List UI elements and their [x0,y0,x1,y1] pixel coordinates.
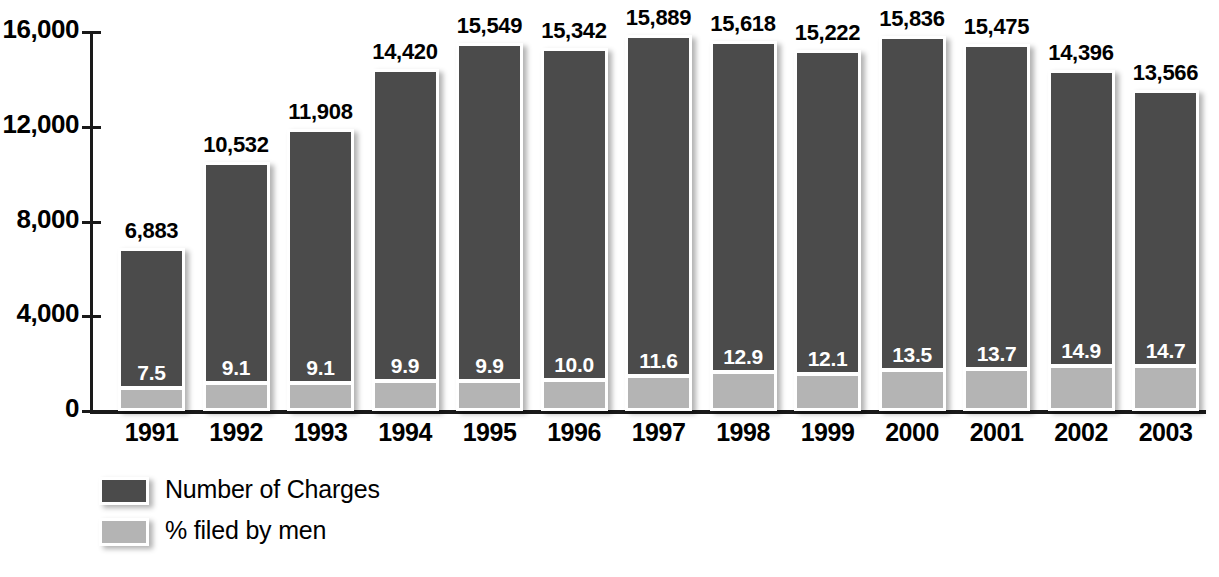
bar-pct-label-1996: 10.0 [541,353,608,377]
bar-pct-label-1998: 12.9 [710,345,777,369]
y-axis-tick-label-text: 4,000 [16,298,79,329]
y-axis-tick-label-text: 12,000 [2,109,79,140]
bar-1991 [118,248,185,411]
x-axis-label-1994: 1994 [366,418,445,447]
x-axis-label-2002: 2002 [1042,418,1121,447]
y-axis-tick-label-text: 8,000 [16,204,79,235]
bar-pct-segment-1996 [544,378,605,408]
bar-pct-label-1992: 9.1 [203,356,270,380]
x-axis-label-2001: 2001 [957,418,1036,447]
bar-pct-label-2000: 13.5 [879,343,946,367]
bar-pct-label-1994: 9.9 [372,354,439,378]
bar-chart: 16,00012,0008,0004,0000 6,8837.5199110,5… [0,0,1219,577]
bar-value-label-1995: 15,549 [456,13,523,39]
bar-value-label-2000: 15,836 [879,6,946,32]
bar-pct-segment-2000 [882,368,943,408]
legend-swatch-1 [99,518,149,546]
bar-value-label-2002: 14,396 [1048,40,1115,66]
bar-pct-segment-2001 [966,367,1027,408]
x-axis-label-1995: 1995 [450,418,529,447]
bar-pct-segment-1994 [375,379,436,408]
x-axis-label-1998: 1998 [704,418,783,447]
bar-pct-segment-2002 [1051,364,1112,408]
bar-pct-label-2001: 13.7 [963,342,1030,366]
bar-value-label-2003: 13,566 [1132,60,1199,86]
bar-pct-label-1993: 9.1 [287,356,354,380]
y-axis-tick [82,221,101,224]
y-axis-tick [82,315,101,318]
legend-label-1: % filed by men [165,516,326,545]
bar-pct-segment-1999 [797,372,858,408]
bar-value-label-1992: 10,532 [203,132,270,158]
bar-pct-label-2003: 14.7 [1132,339,1199,363]
y-axis-tick-label-text: 0 [65,393,79,424]
x-axis-label-1996: 1996 [535,418,614,447]
bar-value-label-1999: 15,222 [794,20,861,46]
bar-pct-label-2002: 14.9 [1048,339,1115,363]
y-axis-tick [82,126,101,129]
bar-pct-segment-1991 [121,386,182,408]
x-axis-label-1991: 1991 [112,418,191,447]
bar-pct-label-1999: 12.1 [794,347,861,371]
bar-pct-label-1997: 11.6 [625,349,692,373]
bar-value-label-2001: 15,475 [963,14,1030,40]
bar-pct-segment-1995 [459,379,520,408]
x-axis-label-1999: 1999 [788,418,867,447]
bar-value-label-1998: 15,618 [710,11,777,37]
x-axis-label-1993: 1993 [281,418,360,447]
bar-pct-segment-1992 [206,381,267,408]
x-axis-label-1992: 1992 [197,418,276,447]
bar-value-label-1993: 11,908 [287,99,354,125]
bar-value-label-1996: 15,342 [541,18,608,44]
x-axis-label-2000: 2000 [873,418,952,447]
bar-value-label-1994: 14,420 [372,39,439,65]
bar-pct-label-1995: 9.9 [456,354,523,378]
bar-pct-label-1991: 7.5 [118,361,185,385]
legend-label-0: Number of Charges [165,475,380,504]
y-axis-tick-label-text: 16,000 [2,14,79,45]
bar-value-label-1991: 6,883 [118,218,185,244]
bar-pct-segment-2003 [1135,364,1196,408]
bar-value-label-1997: 15,889 [625,5,692,31]
x-axis-label-2003: 2003 [1126,418,1205,447]
legend-swatch-0 [99,477,149,505]
bar-pct-segment-1993 [290,381,351,408]
y-axis-tick [82,31,101,34]
bar-pct-segment-1997 [628,374,689,408]
bar-pct-segment-1998 [713,370,774,408]
x-axis-label-1997: 1997 [619,418,698,447]
